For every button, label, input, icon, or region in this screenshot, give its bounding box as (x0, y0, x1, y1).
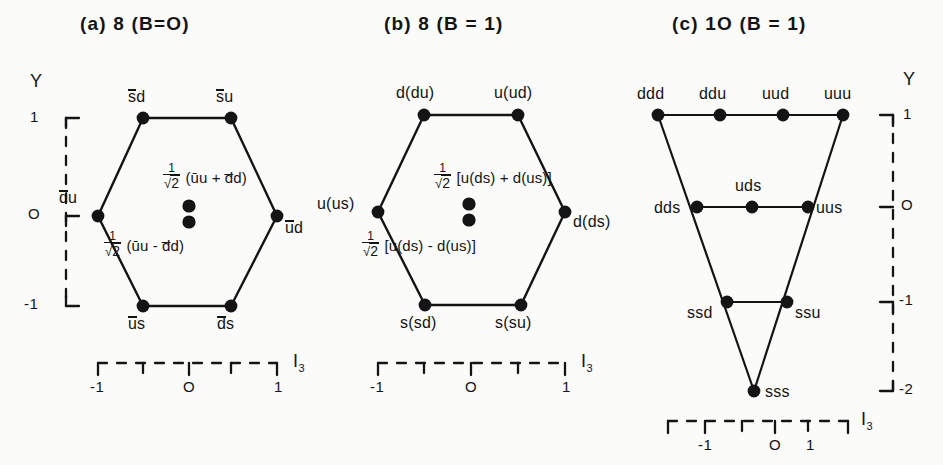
fraction-denominator: √2 (104, 243, 121, 259)
panel-c-y-tick-1: 1 (903, 106, 912, 121)
panel-c-x-axis-subscript: 3 (866, 420, 873, 432)
state-label-uds: uds (735, 178, 761, 194)
fraction-denominator: √2 (362, 243, 379, 259)
panel-a-x-axis-label: I3 (293, 352, 305, 374)
center-state-antisymmetric-b-body: [u(ds) - d(us)] (384, 237, 476, 254)
one-over-sqrt-two: 1 √2 (434, 163, 451, 191)
panel-c-triangle (658, 115, 843, 391)
dot-ddu (714, 109, 727, 122)
state-label-ssu: ssu (795, 305, 821, 321)
panel-a-y-tick-1: 1 (30, 109, 39, 124)
overline-s: s (216, 88, 224, 105)
panel-c-x-tick-1: 1 (806, 437, 815, 452)
panel-c-y-tick-0: O (901, 197, 913, 212)
state-label-d-du: d(du) (396, 85, 434, 101)
state-label-d-ds: d(ds) (573, 214, 610, 230)
panel-a-x-axis-subscript: 3 (298, 362, 305, 374)
panel-b-title: (b) 8 (B = 1) (384, 14, 504, 33)
center-state-symmetric-b-body: [u(ds) + d(us)] (456, 169, 551, 186)
dot-center-lower-a (182, 215, 195, 228)
state-label-ddd: ddd (637, 86, 664, 102)
panel-a-state-dots (92, 112, 284, 313)
fraction-numerator: 1 (434, 163, 451, 175)
panel-a-x-axis (98, 363, 277, 375)
dot-uus (802, 201, 815, 214)
panel-a-y-axis-label: Y (30, 72, 42, 90)
panel-c-state-dots (652, 109, 850, 398)
center-state-symmetric-b: 1 √2 [u(ds) + d(us)] (434, 163, 552, 191)
sqrt-icon: √2 (104, 243, 121, 259)
dot-sss (748, 385, 761, 398)
fraction-numerator: 1 (163, 163, 180, 175)
dot-uud (777, 109, 790, 122)
state-label-uuu: uuu (824, 86, 851, 102)
one-over-sqrt-two: 1 √2 (104, 231, 121, 259)
panel-b-x-tick-m1: -1 (370, 379, 384, 394)
dot-dbar-s (225, 300, 238, 313)
panel-c-x-axis-label: I3 (861, 410, 873, 432)
overline-d: d (217, 315, 226, 332)
state-label-ssd: ssd (687, 305, 713, 321)
dot-u-us (372, 206, 385, 219)
sqrt-icon: √2 (434, 175, 451, 191)
fraction-numerator: 1 (104, 231, 121, 243)
dot-dds (691, 201, 704, 214)
overline-s: s (128, 88, 136, 105)
state-label-s-su: s(su) (495, 315, 532, 331)
dot-uuu (837, 109, 850, 122)
panel-b-x-tick-0: O (465, 379, 477, 394)
panel-c-y-axis-label: Y (903, 70, 915, 88)
dot-d-du (418, 109, 431, 122)
dot-ubar-s (137, 300, 150, 313)
panel-a-y-axis (66, 118, 79, 306)
state-label-ddu: ddu (699, 86, 726, 102)
fraction-denominator: √2 (434, 175, 451, 191)
panel-a-x-tick-m1: -1 (90, 379, 104, 394)
panel-c-y-tick-m1: -1 (899, 292, 913, 307)
su3-weight-diagram-figure: (a) 8 (B=O) Y 1 O -1 -1 O 1 I3 sd su du … (0, 0, 943, 465)
dot-s-sd (419, 299, 432, 312)
state-label-dbar-u: du (59, 189, 77, 206)
panel-b-x-axis-label: I3 (581, 352, 593, 374)
sqrt-icon: √2 (163, 175, 180, 191)
overline-u: u (128, 315, 137, 332)
panel-a-x-tick-1: 1 (274, 379, 283, 394)
state-label-s-sd: s(sd) (400, 315, 437, 331)
one-over-sqrt-two: 1 √2 (362, 231, 379, 259)
center-state-symmetric-a: 1 √2 (ūu + d̅d) (163, 163, 247, 191)
panel-b-x-axis-subscript: 3 (586, 362, 593, 374)
one-over-sqrt-two: 1 √2 (163, 163, 180, 191)
panel-c-x-tick-0: O (769, 437, 781, 452)
dot-ddd (652, 109, 665, 122)
panel-c-y-tick-m2: -2 (899, 381, 913, 396)
state-label-dds: dds (654, 200, 680, 216)
center-state-antisymmetric-a-body: (ūu - d̅d) (126, 237, 184, 254)
panel-b-state-dots (372, 109, 572, 312)
panel-a-y-tick-m1: -1 (24, 296, 38, 311)
dot-ubar-d (271, 210, 284, 223)
panel-c-x-tick-m1: -1 (698, 437, 712, 452)
center-state-symmetric-a-body: (ūu + d̅d) (185, 169, 246, 186)
dot-d-ds (559, 206, 572, 219)
state-label-uud: uud (762, 86, 789, 102)
state-label-uus: uus (816, 200, 842, 216)
panel-a-y-tick-0: O (28, 206, 40, 221)
state-label-sbar-u: su (216, 88, 233, 105)
dot-ssu (781, 296, 794, 309)
dot-u-ud (512, 109, 525, 122)
state-label-u-ud: u(ud) (494, 85, 532, 101)
decuplet-triangle-c (658, 115, 843, 391)
overline-u: u (285, 219, 294, 236)
dot-s-su (515, 299, 528, 312)
dot-dbar-u (92, 210, 105, 223)
dot-center-lower-b (462, 213, 475, 226)
panel-a-title: (a) 8 (B=O) (80, 14, 190, 33)
panel-b-x-axis (378, 363, 565, 375)
state-label-sss: sss (765, 384, 790, 400)
center-state-antisymmetric-a: 1 √2 (ūu - d̅d) (104, 231, 184, 259)
panel-c-y-axis (880, 115, 893, 391)
fraction-denominator: √2 (163, 175, 180, 191)
overline-d: d (59, 189, 68, 206)
center-state-antisymmetric-b: 1 √2 [u(ds) - d(us)] (362, 231, 476, 259)
state-label-u-us: u(us) (317, 196, 354, 212)
